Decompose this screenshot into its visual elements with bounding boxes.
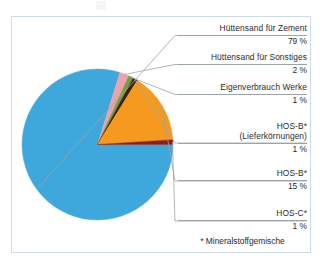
callout-subtitle: (Lieferkörnungen) xyxy=(178,131,307,141)
callout-label-column: Hüttensand für Zement 79 % Hüttensand fü… xyxy=(178,16,307,253)
callout-title: Hüttensand für Sonstiges xyxy=(178,52,307,62)
callout-value: 1 % xyxy=(178,144,307,156)
figure-root: Hüttensand für Zement 79 % Hüttensand fü… xyxy=(0,0,325,264)
callout-value: 1 % xyxy=(178,221,307,233)
callout-hos-b-lieferkoernungen: HOS-B* (Lieferkörnungen) 1 % xyxy=(178,121,307,155)
callout-value: 2 % xyxy=(178,65,307,77)
callout-hos-b: HOS-B* 15 % xyxy=(178,168,307,192)
callout-huettensand-sonstiges: Hüttensand für Sonstiges 2 % xyxy=(178,52,307,76)
callout-title: HOS-B* xyxy=(178,168,307,178)
callout-hos-c: HOS-C* 1 % xyxy=(178,208,307,232)
callout-value: 1 % xyxy=(178,95,307,107)
callout-title: Hüttensand für Zement xyxy=(178,23,307,33)
pie-slice-group xyxy=(22,69,173,220)
callout-title: HOS-C* xyxy=(178,208,307,218)
callout-value: 79 % xyxy=(178,36,307,48)
callout-title: Eigenverbrauch Werke xyxy=(178,82,307,92)
callout-eigenverbrauch-werke: Eigenverbrauch Werke 1 % xyxy=(178,82,307,106)
footnote: * Mineralstoffgemische xyxy=(178,236,307,246)
callout-huettensand-zement: Hüttensand für Zement 79 % xyxy=(178,23,307,47)
callout-title: HOS-B* xyxy=(178,121,307,131)
callout-value: 15 % xyxy=(178,181,307,193)
